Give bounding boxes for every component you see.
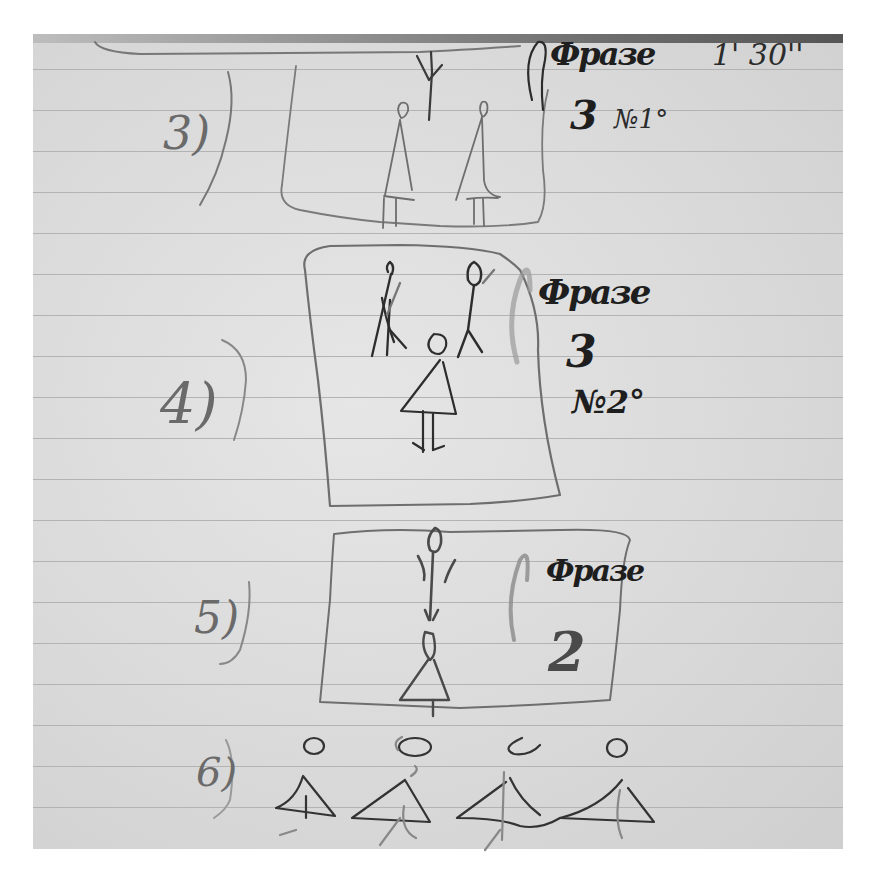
frame-4-bracket	[222, 340, 246, 440]
frame-3-box	[281, 66, 548, 227]
frame-3-number: 3)	[163, 110, 210, 156]
frame-5-number: 5)	[194, 596, 239, 640]
frame-3-count: 3	[570, 95, 598, 135]
sketch-drawings	[0, 0, 869, 880]
frame-6-figure-2	[352, 737, 431, 845]
frame-3-figure-arms-raised	[417, 52, 442, 120]
frame-4-figure-1	[372, 262, 406, 356]
frame-5-figure-dress	[400, 632, 449, 716]
frame-3-phrase-flourish	[528, 42, 546, 110]
frame-3-note: №1°	[614, 106, 668, 132]
frame-4-label: Фразе	[538, 275, 649, 309]
previous-frame-box-edge	[95, 42, 520, 54]
frame-4-box	[304, 245, 560, 506]
frame-5-figure-standing	[418, 528, 455, 620]
frame-4-count: 3	[566, 330, 597, 374]
frame-5-phrase-flourish	[511, 556, 528, 641]
frame-6-figure-1	[276, 738, 335, 835]
frame-4-number: 4)	[160, 376, 217, 432]
frame-5-count: 2	[548, 625, 586, 679]
frame-6-number: 6)	[196, 752, 237, 792]
frame-4-figure-3-dress	[401, 334, 456, 452]
frame-3-figure-dress-2	[456, 102, 500, 226]
timing-label: 1' 30''	[712, 40, 804, 70]
frame-6-figure-3	[457, 738, 560, 850]
frame-3-label: Фразе	[550, 38, 654, 70]
frame-5-label: Фразе	[546, 556, 643, 586]
frame-4-figure-2	[458, 262, 494, 357]
frame-6-figure-4	[560, 739, 654, 838]
frame-3-figure-dress-1	[383, 103, 414, 228]
frame-4-note: №2°	[572, 386, 645, 418]
